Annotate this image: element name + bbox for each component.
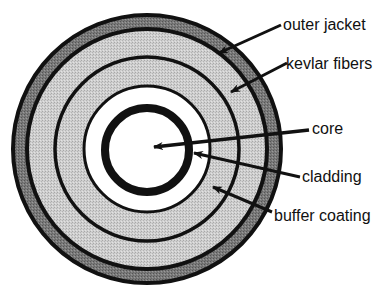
fiber-optic-cross-section-diagram: outer jacket kevlar fibers core cladding…: [0, 0, 379, 295]
kevlar-fibers-label: kevlar fibers: [286, 55, 372, 72]
core-label: core: [312, 120, 343, 137]
core-layer: [105, 108, 189, 192]
labels: outer jacket kevlar fibers core cladding…: [274, 16, 372, 224]
buffer-coating-label: buffer coating: [274, 207, 371, 224]
outer-jacket-label: outer jacket: [283, 16, 366, 33]
cladding-label: cladding: [302, 168, 362, 185]
outer-jacket-leader: [219, 25, 281, 53]
